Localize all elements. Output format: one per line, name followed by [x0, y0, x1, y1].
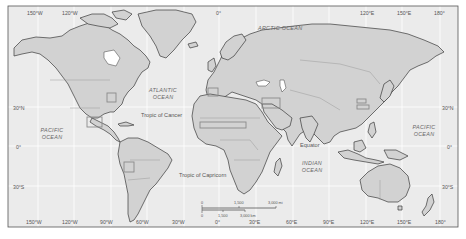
bottom-lon-0: 0°	[215, 219, 220, 225]
scale-mi-1500: 1,500	[234, 201, 244, 205]
top-lon-150e: 150°E	[397, 10, 412, 16]
tasmania	[398, 206, 402, 210]
right-lat-30s: 30°S	[442, 184, 454, 190]
indian-ocean-label-line2: OCEAN	[302, 167, 323, 173]
bottom-lon-120w: 120°W	[62, 219, 78, 225]
bottom-lon-30e: 30°E	[249, 219, 261, 225]
pacific-ocean-west-label-line1: PACIFIC	[41, 127, 64, 133]
pacific-ocean-east-label-line2: OCEAN	[414, 131, 435, 137]
pacific-ocean-west-label-line2: OCEAN	[42, 134, 63, 140]
equator-label: Equator	[300, 142, 320, 148]
bottom-lon-120e: 120°E	[360, 219, 375, 225]
tropic-of-cancer-label: Tropic of Cancer	[141, 112, 182, 118]
bottom-lon-60w: 60°W	[136, 219, 149, 225]
bottom-lon-90w: 90°W	[100, 219, 113, 225]
top-lon-180: 180°	[434, 10, 445, 16]
atlantic-ocean-label-line1: ATLANTIC	[148, 87, 177, 93]
scale-km-3000: 3,000 km	[240, 214, 256, 218]
tropic-of-capricorn-label: Tropic of Capricorn	[179, 172, 226, 178]
top-lon-0: 0°	[216, 10, 221, 16]
right-lat-30n: 30°N	[442, 105, 454, 111]
bottom-lon-30w: 30°W	[172, 219, 185, 225]
right-lat-0: 0°	[447, 144, 452, 150]
world-map: 150°W 120°W 0° 120°E 150°E 180° 150°W 12…	[0, 0, 466, 239]
arctic-ocean-label: ARCTIC OCEAN	[257, 25, 302, 31]
scale-mi-0: 0	[201, 201, 203, 205]
scale-km-0: 0	[201, 214, 203, 218]
bottom-lon-60e: 60°E	[286, 219, 298, 225]
top-lon-150w: 150°W	[27, 10, 43, 16]
bottom-lon-180: 180°	[435, 219, 446, 225]
top-lon-120w: 120°W	[62, 10, 78, 16]
atlantic-ocean-label-line2: OCEAN	[153, 94, 174, 100]
left-lat-30n: 30°N	[13, 105, 25, 111]
bottom-lon-150e: 150°E	[397, 219, 412, 225]
map-canvas: 150°W 120°W 0° 120°E 150°E 180° 150°W 12…	[0, 0, 466, 239]
left-lat-0: 0°	[16, 144, 21, 150]
pacific-ocean-east-label-line1: PACIFIC	[413, 124, 436, 130]
left-lat-30s: 30°S	[13, 184, 25, 190]
top-lon-120e: 120°E	[360, 10, 375, 16]
scale-km-1500: 1,500	[218, 214, 228, 218]
scale-mi-3000: 3,000 mi	[268, 201, 283, 205]
indian-ocean-label-line1: INDIAN	[302, 160, 322, 166]
bottom-lon-90e: 90°E	[323, 219, 335, 225]
bottom-lon-150w: 150°W	[26, 219, 42, 225]
